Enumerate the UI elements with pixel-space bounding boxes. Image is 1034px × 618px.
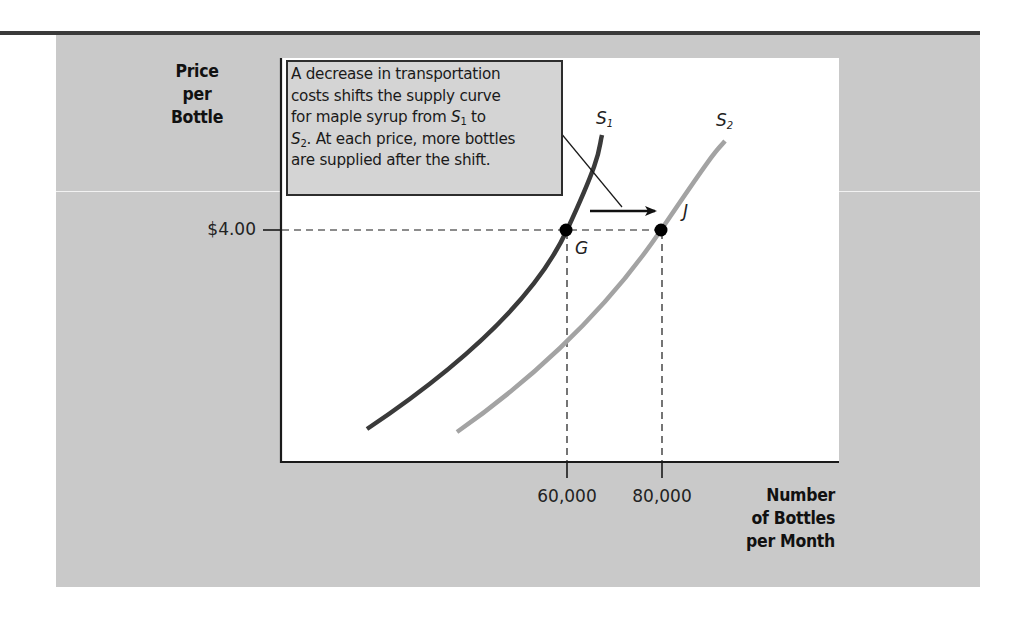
curve-label-s1: S1: [596, 108, 613, 128]
x-tick-label-60000: 60,000: [527, 486, 607, 506]
callout-line-3: for maple syrup from S1 to: [291, 107, 558, 129]
y-title-line-1: Price: [147, 60, 247, 83]
callout-line-2: costs shifts the supply curve: [291, 86, 558, 108]
callout-box: A decrease in transportation costs shift…: [286, 60, 563, 196]
point-j-dot: [655, 224, 668, 237]
y-tick-label-price: $4.00: [190, 219, 256, 239]
curve-label-s1-sub: 1: [607, 118, 613, 129]
callout-symbol-s: S: [291, 130, 300, 148]
x-tick-label-80000: 80,000: [622, 486, 702, 506]
curve-label-s2: S2: [716, 110, 733, 130]
point-g-dot: [560, 224, 573, 237]
point-label-g: G: [575, 238, 588, 258]
x-axis-title: Number of Bottles per Month: [735, 484, 835, 553]
x-title-line-2: of Bottles: [735, 507, 835, 530]
y-title-line-2: per: [147, 83, 247, 106]
curve-label-s2-sub: 2: [727, 120, 733, 131]
callout-line-5: are supplied after the shift.: [291, 150, 558, 172]
x-title-line-3: per Month: [735, 530, 835, 553]
callout-leader-line: [560, 132, 622, 207]
callout-symbol-s: S: [451, 108, 460, 126]
curve-label-s2-letter: S: [716, 110, 727, 130]
callout-line-4: S2. At each price, more bottles: [291, 129, 558, 151]
callout-text: to: [467, 108, 486, 126]
callout-text: for maple syrup from: [291, 108, 451, 126]
y-title-line-3: Bottle: [147, 106, 247, 129]
callout-line-1: A decrease in transportation: [291, 64, 558, 86]
callout-text: . At each price, more bottles: [307, 130, 516, 148]
curve-label-s1-letter: S: [596, 108, 607, 128]
x-title-line-1: Number: [735, 484, 835, 507]
y-axis-title: Price per Bottle: [147, 60, 247, 129]
point-label-j: J: [683, 201, 688, 221]
